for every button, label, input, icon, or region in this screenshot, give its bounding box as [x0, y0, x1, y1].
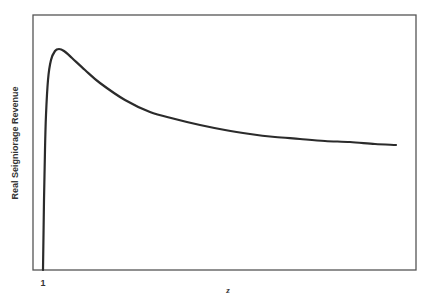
x-axis-label: z	[226, 285, 230, 295]
x-tick-1: 1	[40, 278, 45, 288]
revenue-curve	[43, 49, 396, 270]
y-axis-label: Real Seigniorage Revenue	[10, 86, 20, 199]
chart-canvas	[0, 0, 427, 305]
